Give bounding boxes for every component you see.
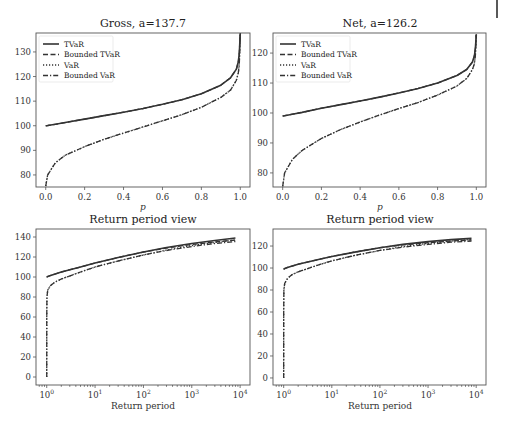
- line-bounded-tvar: [284, 240, 472, 269]
- x-axis: 100101102103104: [39, 385, 247, 400]
- x-tick-label: 104: [469, 388, 484, 400]
- legend-label: Bounded VaR: [301, 71, 352, 80]
- x-tick-label: 0.6: [392, 192, 406, 202]
- legend-label: Bounded TVaR: [301, 50, 357, 59]
- y-tick-label: 110: [252, 78, 268, 88]
- panel-return-period-net: Return period view 020406080100120 10010…: [252, 213, 486, 411]
- y-tick-label: 80: [20, 292, 31, 302]
- panel-gross: Gross, a=137.7 8090100110120130 0.00.20.…: [15, 17, 250, 212]
- legend: TVaRBounded TVaRVaRBounded VaR: [276, 36, 357, 82]
- y-tick-label: 100: [15, 272, 31, 282]
- legend-label: TVaR: [64, 40, 84, 49]
- x-tick-label: 100: [276, 388, 291, 400]
- x-tick-label: 0.4: [353, 192, 367, 202]
- y-tick-label: 90: [257, 138, 268, 148]
- y-tick-label: 100: [15, 121, 31, 131]
- axes-frame: [273, 229, 486, 385]
- legend-label: VaR: [63, 61, 79, 70]
- y-tick-label: 120: [15, 72, 31, 82]
- line-bounded-tvar: [47, 240, 236, 277]
- x-tick-label: 103: [421, 388, 436, 400]
- x-tick-label: 100: [39, 388, 54, 400]
- y-tick-label: 20: [20, 352, 31, 362]
- legend-label: TVaR: [301, 40, 321, 49]
- legend-label: VaR: [300, 61, 316, 70]
- x-tick-label: 101: [324, 388, 339, 400]
- y-tick-label: 100: [252, 263, 268, 273]
- x-tick-label: 1.0: [234, 192, 248, 202]
- x-tick-label: 0.8: [195, 192, 209, 202]
- legend-label: Bounded VaR: [64, 71, 115, 80]
- line-bounded-var: [47, 242, 236, 378]
- y-tick-label: 80: [257, 168, 268, 178]
- y-tick-label: 60: [257, 307, 268, 317]
- y-tick-label: 80: [20, 170, 31, 180]
- y-tick-label: 80: [257, 285, 268, 295]
- x-tick-label: 0.4: [117, 192, 131, 202]
- y-axis: 020406080100120: [252, 241, 273, 383]
- x-tick-label: 103: [184, 388, 199, 400]
- y-tick-label: 60: [20, 312, 31, 322]
- x-tick-label: 0.0: [276, 192, 290, 202]
- panel-return-period-gross: Return period view 020406080100120140 10…: [15, 213, 250, 411]
- y-tick-label: 100: [252, 108, 268, 118]
- panel-title: Return period view: [326, 213, 434, 226]
- legend: TVaRBounded TVaRVaRBounded VaR: [39, 36, 120, 82]
- panel-title: Return period view: [89, 213, 197, 226]
- plot-lines: [284, 238, 472, 378]
- x-tick-label: 0.6: [156, 192, 170, 202]
- x-tick-label: 102: [373, 388, 388, 400]
- panel-title: Net, a=126.2: [343, 17, 418, 30]
- x-axis: 0.00.20.40.60.81.0: [276, 187, 483, 202]
- x-tick-label: 101: [88, 388, 103, 400]
- x-axis-label: Return period: [111, 401, 175, 411]
- x-axis-label: Return period: [348, 401, 412, 411]
- x-tick-label: 102: [136, 388, 151, 400]
- x-tick-label: 0.2: [315, 192, 329, 202]
- y-tick-label: 20: [257, 351, 268, 361]
- y-tick-label: 90: [20, 145, 31, 155]
- x-tick-label: 1.0: [470, 192, 484, 202]
- x-axis-label: p: [377, 202, 383, 212]
- y-tick-label: 120: [252, 48, 268, 58]
- y-axis: 8090100110120130: [15, 47, 36, 180]
- y-tick-label: 40: [20, 332, 31, 342]
- x-tick-label: 0.2: [78, 192, 92, 202]
- y-axis: 020406080100120140: [15, 232, 36, 382]
- y-tick-label: 40: [257, 329, 268, 339]
- legend-label: Bounded TVaR: [64, 50, 120, 59]
- y-tick-label: 0: [26, 372, 31, 382]
- y-tick-label: 120: [15, 252, 31, 262]
- y-tick-label: 130: [15, 47, 31, 57]
- x-tick-label: 104: [233, 388, 248, 400]
- x-axis-label: p: [140, 202, 146, 212]
- panel-net: Net, a=126.2 8090100110120 0.00.20.40.60…: [252, 17, 486, 212]
- y-tick-label: 0: [263, 373, 268, 383]
- x-axis: 0.00.20.40.60.81.0: [39, 187, 247, 202]
- x-tick-label: 0.8: [431, 192, 445, 202]
- y-tick-label: 110: [15, 96, 31, 106]
- panel-title: Gross, a=137.7: [100, 17, 186, 30]
- y-tick-label: 120: [252, 241, 268, 251]
- line-var: [47, 240, 236, 377]
- figure: Gross, a=137.7 8090100110120130 0.00.20.…: [0, 0, 506, 426]
- x-tick-label: 0.0: [39, 192, 53, 202]
- y-tick-label: 140: [15, 232, 31, 242]
- y-axis: 8090100110120: [252, 48, 273, 178]
- line-tvar: [284, 238, 472, 269]
- plot-lines: [47, 238, 236, 377]
- x-axis: 100101102103104: [276, 385, 483, 400]
